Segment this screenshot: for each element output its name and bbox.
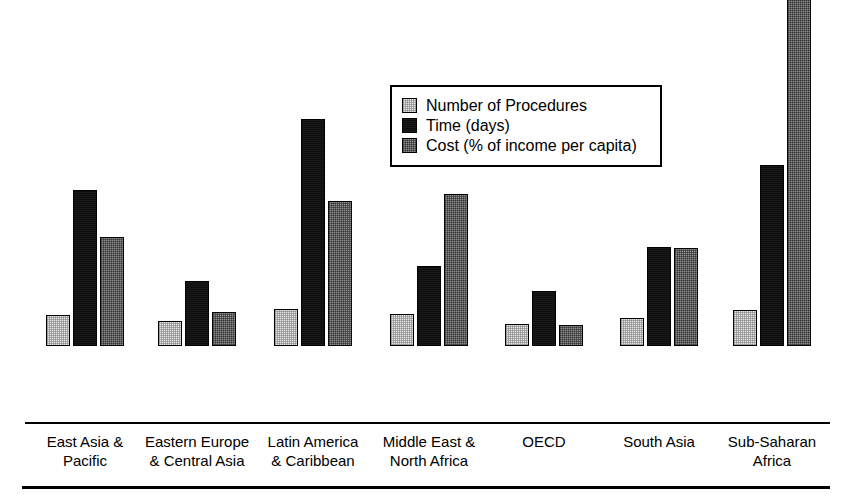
bar: 5.3 (559, 325, 583, 346)
bar-group: 9.356.736.2 (268, 0, 358, 346)
legend-label-cost: Cost (% of income per capita) (426, 137, 637, 154)
bar-procedures: 6.3 (158, 0, 182, 346)
bar-cost: 8.5 (212, 0, 236, 346)
bar-group: 8.945.295.4 (727, 0, 817, 346)
bar-group: 7.83927.1 (40, 0, 130, 346)
legend-item-cost: Cost (% of income per capita) (402, 137, 650, 154)
bar-group: 8.12038 (384, 0, 474, 346)
bar: 56.7 (301, 119, 325, 346)
bar-group: 7.124.624.5 (614, 0, 704, 346)
bar-group: 6.316.38.5 (152, 0, 242, 346)
legend-item-procedures: Number of Procedures (402, 97, 650, 114)
bar: 7.8 (46, 315, 70, 346)
bar-time: 45.2 (760, 0, 784, 346)
x-axis-tick-label: OECD (483, 432, 605, 451)
plot-area: 7.83927.16.316.38.59.356.736.28.120385.6… (0, 0, 850, 424)
bar: 13.8 (532, 291, 556, 346)
legend-swatch-time-icon (402, 118, 417, 133)
bar-time: 56.7 (301, 0, 325, 346)
bar: 24.6 (647, 247, 671, 346)
x-axis-tick-label: Sub-Saharan Africa (711, 432, 833, 470)
bar-cost: 24.5 (674, 0, 698, 346)
x-axis-tick-label: Middle East & North Africa (368, 432, 490, 470)
bar: 8.9 (733, 310, 757, 346)
bar-procedures: 5.6 (505, 0, 529, 346)
bar-cost: 38 (444, 0, 468, 346)
bar: 8.1 (390, 314, 414, 346)
bar: 7.1 (620, 318, 644, 346)
bar-procedures: 8.9 (733, 0, 757, 346)
bar-procedures: 7.1 (620, 0, 644, 346)
bar-cost: 36.2 (328, 0, 352, 346)
bar-procedures: 7.8 (46, 0, 70, 346)
bar: 27.1 (100, 237, 124, 346)
x-axis-baseline (25, 422, 830, 424)
legend: Number of Procedures Time (days) Cost (%… (390, 85, 662, 167)
bar: 8.5 (212, 312, 236, 346)
x-axis-tick-label: Eastern Europe & Central Asia (136, 432, 258, 470)
legend-swatch-cost-icon (402, 138, 417, 153)
bar-group: 5.613.85.3 (499, 0, 589, 346)
bottom-rule (22, 486, 830, 489)
x-axis-tick-label: South Asia (598, 432, 720, 451)
bar: 6.3 (158, 321, 182, 346)
bar-cost: 5.3 (559, 0, 583, 346)
bar-time: 39 (73, 0, 97, 346)
bar-time: 16.3 (185, 0, 209, 346)
bar-time: 20 (417, 0, 441, 346)
bar: 39 (73, 190, 97, 346)
bar-time: 13.8 (532, 0, 556, 346)
bar-procedures: 9.3 (274, 0, 298, 346)
bar: 24.5 (674, 248, 698, 346)
bar: 20 (417, 266, 441, 346)
bar: 9.3 (274, 309, 298, 346)
bar-cost: 95.4 (787, 0, 811, 346)
bar: 5.6 (505, 324, 529, 346)
x-axis-tick-label: Latin America & Caribbean (252, 432, 374, 470)
legend-label-time: Time (days) (426, 117, 510, 134)
legend-item-time: Time (days) (402, 117, 650, 134)
legend-label-procedures: Number of Procedures (426, 97, 587, 114)
x-axis-tick-label: East Asia & Pacific (24, 432, 146, 470)
bar: 45.2 (760, 165, 784, 346)
bar: 36.2 (328, 201, 352, 346)
legend-swatch-procedures-icon (402, 98, 417, 113)
bar-time: 24.6 (647, 0, 671, 346)
bar: 16.3 (185, 281, 209, 346)
bar-procedures: 8.1 (390, 0, 414, 346)
bar: 95.4 (787, 0, 811, 346)
bar-cost: 27.1 (100, 0, 124, 346)
bar: 38 (444, 194, 468, 346)
bar-chart: 7.83927.16.316.38.59.356.736.28.120385.6… (0, 0, 850, 502)
